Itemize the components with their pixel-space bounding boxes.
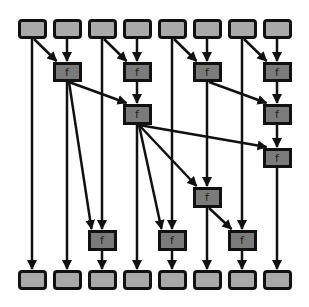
edge-t5-to-f6a bbox=[174, 39, 197, 61]
operator-label: f bbox=[275, 152, 279, 165]
operator-node-f8a: f bbox=[263, 62, 292, 82]
input-node-t2 bbox=[53, 19, 82, 39]
input-node-t6 bbox=[193, 19, 222, 39]
operator-label: f bbox=[135, 108, 139, 121]
output-node-b7 bbox=[228, 270, 257, 290]
operator-node-f5e: f bbox=[158, 230, 187, 251]
edge-t7-to-f8a bbox=[244, 39, 267, 61]
operator-node-f4b: f bbox=[123, 104, 152, 125]
operator-node-f6d: f bbox=[193, 187, 222, 208]
input-node-t8 bbox=[263, 19, 292, 39]
operator-node-f7e: f bbox=[228, 230, 257, 251]
input-node-t4 bbox=[123, 19, 152, 39]
input-node-t3 bbox=[88, 19, 117, 39]
operator-label: f bbox=[205, 66, 209, 79]
output-node-b4 bbox=[123, 270, 152, 290]
operator-label: f bbox=[100, 234, 104, 247]
operator-label: f bbox=[275, 66, 279, 79]
output-node-b5 bbox=[158, 270, 187, 290]
operator-node-f6a: f bbox=[193, 62, 222, 82]
operator-label: f bbox=[205, 191, 209, 204]
output-node-b8 bbox=[263, 270, 292, 290]
operator-label: f bbox=[240, 234, 244, 247]
input-node-t1 bbox=[18, 19, 47, 39]
operator-node-f2a: f bbox=[53, 62, 82, 82]
edge-t1-to-f2a bbox=[34, 39, 57, 61]
edge-t3-to-f4a bbox=[104, 39, 127, 61]
edge-f6d-to-f7e bbox=[209, 208, 232, 229]
operator-node-f3e: f bbox=[88, 230, 117, 251]
edge-f2a-to-f3e bbox=[69, 82, 92, 229]
operator-label: f bbox=[135, 66, 139, 79]
edge-f6a-to-f8b bbox=[209, 82, 267, 103]
operator-label: f bbox=[275, 108, 279, 121]
operator-node-f8c: f bbox=[263, 148, 292, 168]
edge-f2a-to-f4b bbox=[69, 82, 127, 103]
output-node-b6 bbox=[193, 270, 222, 290]
edge-f4b-to-f5e bbox=[139, 125, 162, 229]
input-node-t7 bbox=[228, 19, 257, 39]
operator-node-f8b: f bbox=[263, 104, 292, 125]
operator-node-f4a: f bbox=[123, 62, 152, 82]
output-node-b2 bbox=[53, 270, 82, 290]
output-node-b1 bbox=[18, 270, 47, 290]
output-node-b3 bbox=[88, 270, 117, 290]
operator-label: f bbox=[170, 234, 174, 247]
operator-label: f bbox=[65, 66, 69, 79]
input-node-t5 bbox=[158, 19, 187, 39]
